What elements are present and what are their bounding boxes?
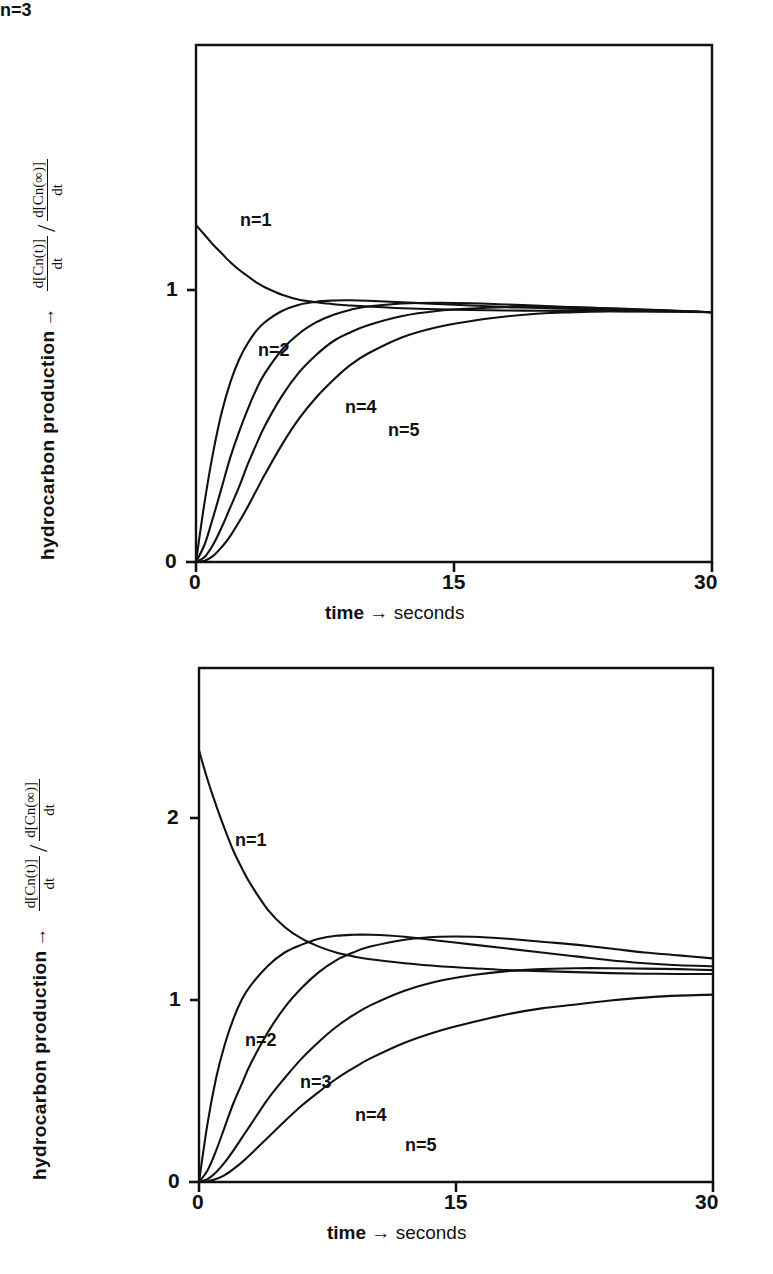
top-ratio-divider: / [32, 224, 62, 233]
top-curves [196, 225, 712, 562]
top-ylabel-text: hydrocarbon production→ [37, 307, 59, 560]
top-curve-label-n5: n=5 [388, 420, 420, 441]
bottom-xlabel-rest: seconds [396, 1222, 467, 1243]
bottom-ylabel-arrow: → [29, 927, 50, 950]
top-xlabel-arrow: → [369, 602, 388, 623]
curve-n4 [199, 968, 713, 1182]
top-xlabel: time → seconds [325, 602, 464, 624]
top-ylabel-ratio: d[Cn(t)] dt / d[Cn(∞)] dt [30, 159, 65, 291]
page-footer-faint-text [8, 1266, 428, 1274]
top-xlabel-bold: time [325, 602, 364, 623]
top-ratio-den-top: d[Cn(∞)] [30, 159, 48, 221]
top-ytick-label-1: 1 [166, 277, 178, 301]
top-ylabel-group: hydrocarbon production→ d[Cn(t)] dt / d[… [30, 159, 65, 560]
top-ratio-numerator: d[Cn(t)] dt [30, 236, 65, 291]
top-curve-label-n4: n=4 [345, 397, 377, 418]
bottom-xlabel-arrow: → [371, 1222, 390, 1243]
bottom-ratio-denominator: d[Cn(∞)] dt [22, 779, 57, 841]
curve-n2 [199, 935, 713, 1182]
top-curve-label-n2: n=2 [258, 340, 290, 361]
bottom-xlabel-bold: time [327, 1222, 366, 1243]
top-curve-label-n1: n=1 [240, 210, 272, 231]
top-xlabel-rest: seconds [394, 602, 465, 623]
bottom-ratio-den-bottom: dt [40, 804, 57, 816]
bottom-curve-label-n2: n=2 [245, 1030, 277, 1051]
bottom-ylabel-ratio: d[Cn(t)] dt / d[Cn(∞)] dt [22, 779, 57, 911]
bottom-ratio-num-bottom: dt [40, 878, 57, 890]
top-ratio-den-bottom: dt [48, 184, 65, 196]
bottom-curve-label-n5: n=5 [405, 1135, 437, 1156]
top-curve-label-n3: n=3 [0, 0, 32, 21]
top-xtick-label-30: 30 [694, 570, 717, 594]
top-chart-canvas [0, 0, 773, 640]
top-xtick-label-0: 0 [189, 570, 201, 594]
top-ytick-label-0: 0 [165, 549, 177, 573]
bottom-ratio-numerator: d[Cn(t)] dt [22, 856, 57, 911]
bottom-xlabel: time → seconds [327, 1222, 466, 1244]
bottom-curve-label-n3: n=3 [300, 1072, 332, 1093]
figure-page: hydrocarbon production→ d[Cn(t)] dt / d[… [0, 0, 773, 1274]
top-ratio-num-bottom: dt [48, 258, 65, 270]
curve-n1 [196, 225, 712, 312]
top-ylabel-arrow: → [37, 307, 58, 330]
figure-top: hydrocarbon production→ d[Cn(t)] dt / d[… [0, 0, 773, 640]
bottom-ratio-divider: / [24, 844, 54, 853]
top-ratio-num-top: d[Cn(t)] [30, 236, 48, 291]
bottom-ytick-label-0: 0 [168, 1169, 180, 1193]
plot-frame [199, 668, 713, 1182]
curve-n1 [199, 750, 713, 974]
bottom-xtick-label-30: 30 [695, 1190, 718, 1214]
top-ratio-denominator: d[Cn(∞)] dt [30, 159, 65, 221]
bottom-curve-label-n1: n=1 [235, 830, 267, 851]
bottom-xtick-label-15: 15 [444, 1190, 467, 1214]
bottom-chart-canvas [0, 630, 773, 1274]
bottom-ytick-label-2: 2 [167, 805, 179, 829]
bottom-ratio-den-top: d[Cn(∞)] [22, 779, 40, 841]
bottom-ylabel-group: hydrocarbon production→ d[Cn(t)] dt / d[… [22, 779, 57, 1180]
bottom-ylabel-text: hydrocarbon production→ [29, 927, 51, 1180]
bottom-ratio-num-top: d[Cn(t)] [22, 856, 40, 911]
top-xtick-label-15: 15 [442, 570, 465, 594]
bottom-curve-label-n4: n=4 [355, 1105, 387, 1126]
bottom-ytick-label-1: 1 [169, 987, 181, 1011]
bottom-axes-frame [189, 668, 713, 1192]
bottom-xtick-label-0: 0 [192, 1190, 204, 1214]
bottom-curves [199, 750, 713, 1182]
figure-bottom: hydrocarbon production→ d[Cn(t)] dt / d[… [0, 630, 773, 1274]
